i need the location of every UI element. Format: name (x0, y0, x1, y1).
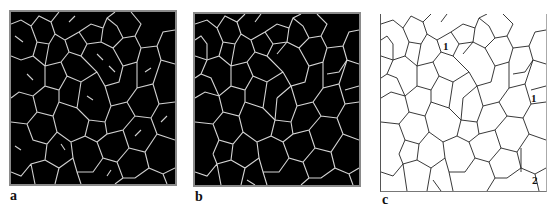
panel-label-b: b (195, 189, 203, 205)
panel-a-image (9, 10, 177, 186)
panel-label-c: c (382, 192, 388, 207)
panel-b-image (193, 12, 361, 187)
annotation-1-top: 1 (443, 40, 449, 52)
grain-network-c (381, 14, 546, 191)
annotation-2: 2 (532, 174, 538, 186)
panel-c-image: 1 1 2 (380, 14, 547, 192)
grain-network-a (11, 12, 175, 184)
grain-network-b (195, 14, 359, 185)
panel-label-a: a (10, 188, 17, 204)
annotation-1-right: 1 (531, 92, 537, 104)
